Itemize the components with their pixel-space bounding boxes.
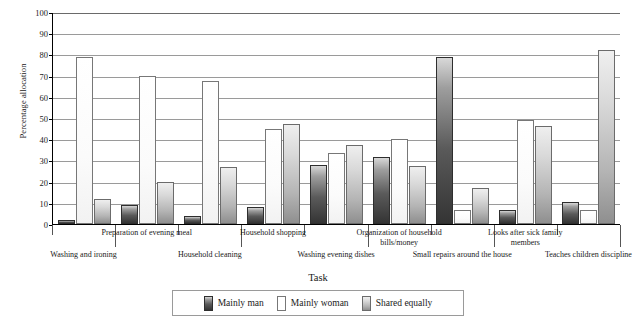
bar-shared bbox=[94, 199, 111, 224]
bar-shared bbox=[598, 50, 615, 224]
y-tick-label: 50 bbox=[40, 115, 49, 124]
y-axis-title: Percentage allocation bbox=[18, 26, 28, 176]
x-axis-title: Task bbox=[0, 272, 636, 283]
bar-man bbox=[373, 157, 390, 224]
bar-shared bbox=[283, 124, 300, 224]
bar-man bbox=[310, 165, 327, 224]
bar-shared bbox=[535, 126, 552, 224]
y-tick-label: 80 bbox=[40, 51, 49, 60]
y-tick-label: 90 bbox=[40, 30, 49, 39]
bar-shared bbox=[157, 182, 174, 224]
bar-woman bbox=[328, 153, 345, 224]
legend-swatch-man bbox=[204, 296, 213, 311]
x-axis-labels: Washing and ironingPreparation of evenin… bbox=[0, 228, 636, 278]
bar-man bbox=[436, 57, 453, 224]
bar-woman bbox=[517, 120, 534, 224]
bar-woman bbox=[76, 57, 93, 224]
y-tick-label: 100 bbox=[35, 9, 48, 18]
y-tick-label: 60 bbox=[40, 94, 49, 103]
bar-man bbox=[184, 216, 201, 224]
bar-woman bbox=[580, 210, 597, 224]
bar-groups bbox=[53, 13, 620, 224]
bar-group bbox=[431, 13, 494, 224]
chart-legend: Mainly manMainly womanShared equally bbox=[172, 290, 464, 316]
bar-woman bbox=[391, 139, 408, 224]
y-tick-label: 40 bbox=[40, 136, 49, 145]
y-tick-label: 30 bbox=[40, 157, 49, 166]
bar-woman bbox=[454, 210, 471, 224]
bar-shared bbox=[472, 188, 489, 224]
x-axis-category-label: Looks after sick family members bbox=[474, 228, 577, 248]
bar-group bbox=[179, 13, 242, 224]
y-tick-label: 70 bbox=[40, 72, 49, 81]
bar-shared bbox=[220, 167, 237, 224]
y-tick-label: 10 bbox=[40, 200, 49, 209]
bar-woman bbox=[265, 129, 282, 224]
bar-group bbox=[368, 13, 431, 224]
legend-label: Shared equally bbox=[376, 298, 433, 308]
bar-shared bbox=[346, 145, 363, 225]
legend-item: Mainly man bbox=[204, 296, 264, 311]
x-axis-category-label: Washing and ironing bbox=[32, 250, 135, 260]
bar-group bbox=[53, 13, 116, 224]
plot-area-wrapper: Percentage allocation 010203040506070809… bbox=[0, 0, 636, 250]
bar-group bbox=[305, 13, 368, 224]
x-axis-category-label: Teaches children discipline bbox=[537, 250, 636, 260]
bar-group bbox=[494, 13, 557, 224]
legend-label: Mainly man bbox=[218, 298, 264, 308]
grouped-bar-chart: Percentage allocation 010203040506070809… bbox=[0, 0, 636, 328]
y-tick-label: 20 bbox=[40, 178, 49, 187]
x-axis-category-label: Household cleaning bbox=[158, 250, 261, 260]
bar-group bbox=[242, 13, 305, 224]
legend-label: Mainly woman bbox=[291, 298, 349, 308]
bar-shared bbox=[409, 166, 426, 224]
bar-woman bbox=[139, 76, 156, 224]
x-axis-category-label: Organization of household bills/money bbox=[348, 228, 451, 248]
legend-item: Mainly woman bbox=[277, 296, 349, 311]
legend-item: Shared equally bbox=[362, 296, 433, 311]
bar-group bbox=[557, 13, 620, 224]
bar-man bbox=[58, 220, 75, 224]
bar-man bbox=[121, 205, 138, 224]
bar-man bbox=[562, 202, 579, 224]
bar-man bbox=[499, 210, 516, 224]
bar-man bbox=[247, 207, 264, 224]
bar-group bbox=[116, 13, 179, 224]
legend-swatch-shared bbox=[362, 296, 371, 311]
x-axis-category-label: Household shopping bbox=[221, 228, 324, 238]
plot-area: 0102030405060708090100 bbox=[52, 13, 620, 225]
x-axis-category-label: Preparation of evening meal bbox=[95, 228, 198, 238]
bar-woman bbox=[202, 81, 219, 224]
x-axis-category-label: Small repairs around the house bbox=[411, 250, 514, 260]
x-axis-category-label: Washing evening dishes bbox=[284, 250, 387, 260]
legend-swatch-woman bbox=[277, 296, 286, 311]
